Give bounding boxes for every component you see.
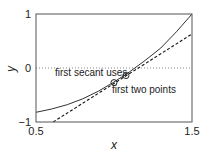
y-tick-label: 1 [25,8,31,20]
function-curve [36,14,192,112]
secant-method-chart: 1 0 −1 0.5 1.5 x y first secant uses fir… [0,0,207,153]
annotation-first-secant-uses: first secant uses [55,67,127,78]
y-tick-label: 0 [25,62,31,74]
x-axis-label: x [110,138,118,152]
x-tick-label: 0.5 [28,125,43,137]
annotation-first-two-points: first two points [112,84,176,95]
x-tick-label: 1.5 [184,125,199,137]
y-axis-label: y [4,65,18,73]
